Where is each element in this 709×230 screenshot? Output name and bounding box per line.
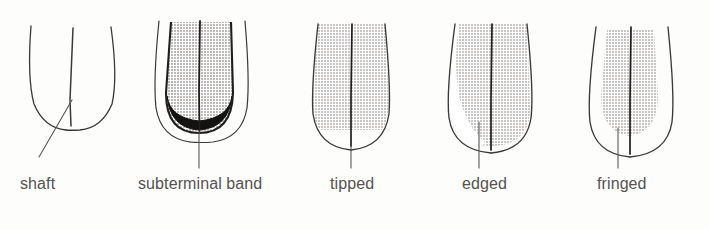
feather-shaft-line-shaft [70, 28, 73, 126]
label-edged: edged [462, 175, 507, 193]
label-fringed: fringed [597, 175, 647, 193]
panel-fringed [589, 27, 673, 168]
panel-shaft [30, 26, 115, 157]
label-tipped: tipped [330, 175, 374, 193]
panel-tipped [306, 20, 396, 168]
leader-line-shaft [39, 100, 72, 157]
feather-shaft-line-subterminal [199, 21, 200, 131]
feather-diagram-board [0, 0, 709, 230]
panel-edged [446, 20, 538, 168]
label-subterminal-band: subterminal band [138, 175, 262, 193]
feather-diagram-svg [0, 0, 709, 230]
label-shaft: shaft [20, 175, 55, 193]
panel-subterminal-band [155, 18, 248, 168]
